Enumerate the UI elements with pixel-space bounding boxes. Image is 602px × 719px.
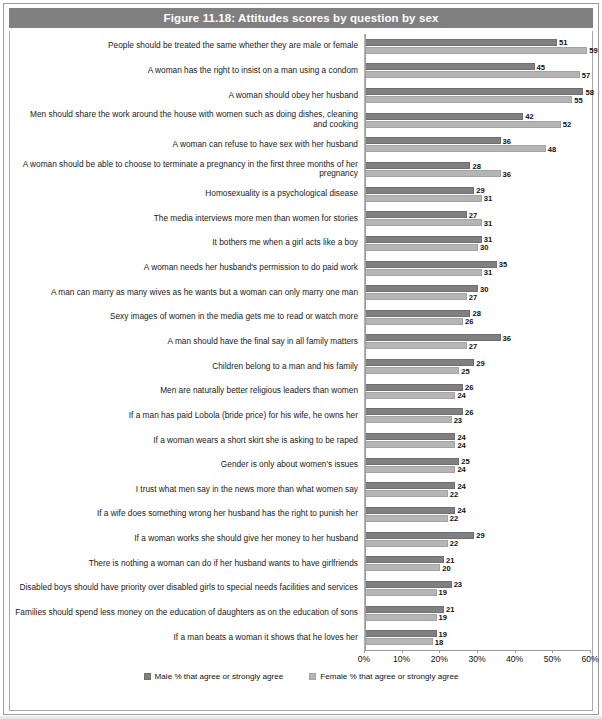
bar-male [365,39,557,46]
page-title: Figure 11.18: Attitudes scores by questi… [164,12,439,24]
bar-group: 2120 [365,551,591,576]
bar-male [365,507,455,514]
bar-group: 3130 [365,231,591,256]
bar-female [365,540,448,547]
bar-value-male: 36 [503,335,511,342]
bar-value-male: 42 [525,113,533,120]
legend-item[interactable]: Male % that agree or strongly agree [144,672,284,681]
x-tick-label: 50% [544,654,561,664]
bar-value-male: 31 [484,236,492,243]
figure-title-bar: Figure 11.18: Attitudes scores by questi… [9,8,593,28]
legend-label: Male % that agree or strongly agree [155,672,284,681]
bar-value-male: 19 [439,631,447,638]
bar-female [365,96,572,103]
bar-value-male: 21 [446,557,454,564]
bar-female [365,490,448,497]
bar-male [365,630,437,637]
bar-female [365,466,455,473]
bar-value-female: 24 [457,442,465,449]
plot-grid-area: 5159455758554252364828362931273131303531… [364,34,590,650]
bar-value-female: 22 [450,540,458,547]
bar-male [365,482,455,489]
bar-male [365,236,482,243]
category-label-column: People should be treated the same whethe… [12,34,364,650]
bar-group: 2119 [365,601,591,626]
chart-row: A man should have the final say in all f… [12,330,364,355]
bar-value-female: 19 [439,589,447,596]
chart-row: A woman can refuse to have sex with her … [12,133,364,158]
chart-row: Children belong to a man and his family [12,354,364,379]
bar-group: 4557 [365,59,591,84]
chart-row: A woman has the right to insist on a man… [12,59,364,84]
category-label: If a woman works she should give her mon… [14,534,358,544]
chart-row: There is nothing a woman can do if her h… [12,551,364,576]
chart-legend: Male % that agree or strongly agreeFemal… [12,672,590,681]
category-label: The media interviews more men than women… [14,214,358,224]
bar-female [365,614,437,621]
category-label: Sexy images of women in the media gets m… [14,313,358,323]
bar-value-male: 21 [446,606,454,613]
chart-row: If a man has paid Lobola (bride price) f… [12,404,364,429]
bar-female [365,441,455,448]
bar-female [365,71,580,78]
bar-value-female: 24 [457,392,465,399]
category-label: Men are naturally better religious leade… [14,386,358,396]
bar-group: 5159 [365,34,591,59]
bar-group: 2922 [365,527,591,552]
bar-value-female: 59 [589,47,597,54]
legend-swatch-male [144,673,151,680]
bar-female [365,219,482,226]
bar-female [365,367,459,374]
bar-value-male: 58 [585,89,593,96]
bar-male [365,162,470,169]
bar-group: 2623 [365,404,591,429]
bar-male [365,88,583,95]
bar-group: 2925 [365,354,591,379]
bar-group: 1918 [365,625,591,650]
bars-layer: 5159455758554252364828362931273131303531… [365,34,590,650]
bar-male [365,63,535,70]
category-label: Disabled boys should have priority over … [14,584,358,594]
bar-male [365,137,501,144]
chart-row: Men are naturally better religious leade… [12,379,364,404]
bar-female [365,318,463,325]
bar-male [365,310,470,317]
bar-group: 5855 [365,83,591,108]
bar-group: 2524 [365,453,591,478]
bar-male [365,606,444,613]
bar-group: 2319 [365,576,591,601]
bar-value-female: 22 [450,515,458,522]
bar-female [365,244,478,251]
bar-value-male: 29 [476,187,484,194]
category-label: Gender is only about women's issues [14,460,358,470]
bar-female [365,170,501,177]
chart-row: Gender is only about women's issues [12,453,364,478]
chart-row: If a woman works she should give her mon… [12,527,364,552]
chart-row: Men should share the work around the hou… [12,108,364,133]
chart-row: Sexy images of women in the media gets m… [12,305,364,330]
category-label: Men should share the work around the hou… [14,111,358,130]
bar-value-female: 27 [469,343,477,350]
category-label: A woman should obey her husband [14,91,358,101]
bar-female [365,342,467,349]
legend-item[interactable]: Female % that agree or strongly agree [309,672,458,681]
x-tick-label: 40% [506,654,523,664]
bar-value-female: 23 [454,417,462,424]
chart-row: It bothers me when a girl acts like a bo… [12,231,364,256]
bar-value-female: 18 [435,639,443,646]
bar-male [365,261,497,268]
bar-value-female: 30 [480,244,488,251]
legend-label: Female % that agree or strongly agree [320,672,458,681]
bar-female [365,47,587,54]
category-label: If a wife does something wrong her husba… [14,510,358,520]
category-label: There is nothing a woman can do if her h… [14,559,358,569]
bar-male [365,384,463,391]
chart-row: If a woman wears a short skirt she is as… [12,428,364,453]
bar-value-male: 29 [476,360,484,367]
bar-group: 2931 [365,182,591,207]
chart-row: A woman should obey her husband [12,83,364,108]
bar-male [365,556,444,563]
x-tick-10 [402,650,403,653]
category-label: Families should spend less money on the … [14,608,358,618]
x-tick-20 [439,650,440,653]
